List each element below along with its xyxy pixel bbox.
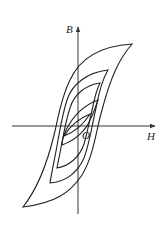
origin-label: O [82, 129, 90, 141]
h-axis-label: H [146, 130, 156, 142]
b-axis-label: B [66, 23, 73, 35]
hysteresis-diagram: B H O [0, 0, 164, 231]
